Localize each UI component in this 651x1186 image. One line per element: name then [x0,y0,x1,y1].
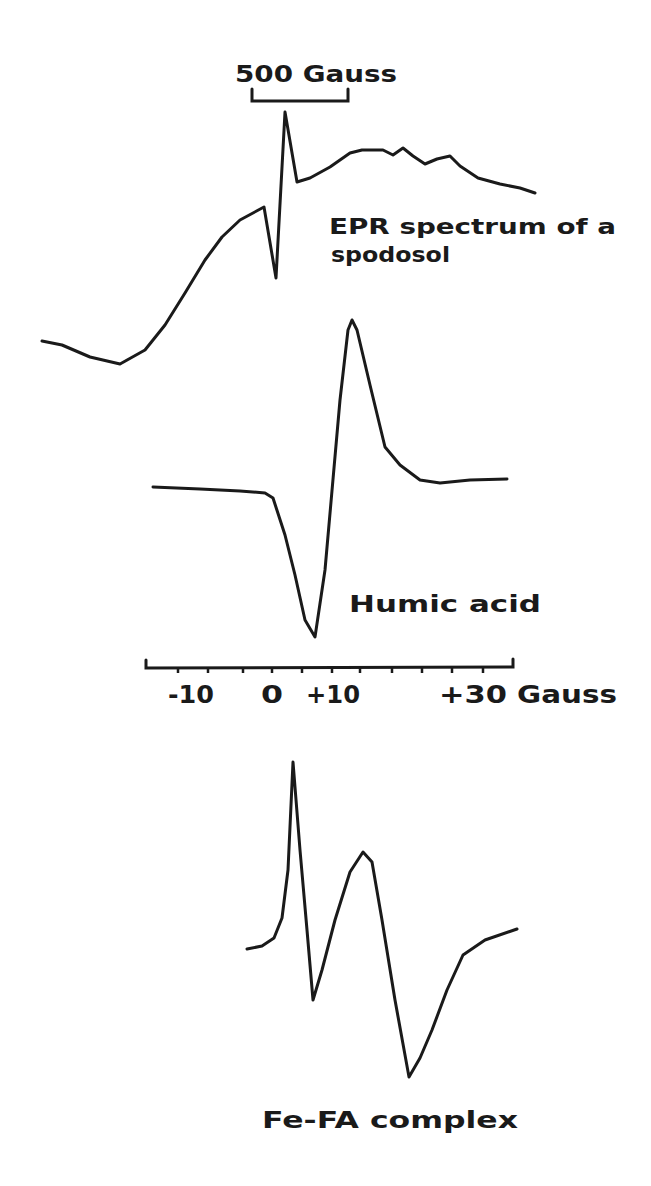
spodosol-label-line1: EPR spectrum of a [329,214,616,239]
tick-label-minus10: -10 [168,681,214,709]
scale-bar-label: 500 Gauss [235,61,397,87]
tick-label-plus30: +30 [439,681,507,709]
axis-unit-label: Gauss [517,681,617,709]
gauss-axis: -10 0 +10 +30 Gauss [146,659,617,709]
tick-label-plus10: +10 [306,681,360,709]
humic-acid-label: Humic acid [349,591,541,617]
axis-line [146,659,513,668]
spodosol-label-line2: spodosol [331,242,450,267]
humic-acid-spectrum-curve [153,320,507,637]
fe-fa-complex-spectrum-curve [247,762,517,1077]
fe-fa-complex-label: Fe-FA complex [262,1107,518,1133]
scale-bar-line [252,89,348,101]
epr-spectra-figure: 500 Gauss EPR spectrum of a spodosol Hum… [0,0,651,1186]
scale-bar: 500 Gauss [235,61,397,101]
tick-label-0: 0 [261,681,283,709]
